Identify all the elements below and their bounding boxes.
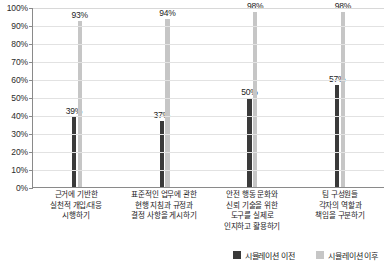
bar[interactable]: 98% [253, 12, 257, 187]
y-axis-tick [29, 170, 33, 171]
x-axis-label: 근거에 기반한실천적 개입/대응시행하기 [26, 190, 126, 222]
y-axis-tick [29, 26, 33, 27]
legend-swatch [316, 251, 324, 259]
y-axis-tick [29, 98, 33, 99]
x-axis-label-line: 팀 구성원들 [290, 190, 386, 201]
gridline [33, 98, 384, 99]
y-axis-tick [29, 188, 33, 189]
gridline [33, 8, 384, 9]
x-axis-label-line: 인지하고 활용하기 [202, 222, 302, 233]
legend-item[interactable]: 시뮬레이션 이후 [316, 250, 378, 261]
chart-legend: 시뮬레이션 이전시뮬레이션 이후 [0, 246, 386, 264]
y-tick-label: 10% [11, 165, 28, 175]
y-axis-tick [29, 62, 33, 63]
y-tick-label: 60% [11, 75, 28, 85]
y-axis-tick [29, 116, 33, 117]
y-axis-tick [29, 80, 33, 81]
gridline [33, 170, 384, 171]
y-axis: 0%10%20%30%40%50%60%70%80%90%100% [0, 0, 30, 196]
x-axis-label: 팀 구성원들각자의 역할과책임을 구분하기 [290, 190, 386, 222]
bar[interactable]: 50% [247, 98, 251, 188]
y-axis-tick [29, 134, 33, 135]
bar[interactable]: 93% [78, 21, 82, 187]
x-axis-label-line: 도구를 실제로 [202, 211, 302, 222]
bar-value-label: 93% [72, 10, 88, 20]
y-tick-label: 100% [7, 3, 28, 13]
y-tick-label: 90% [11, 21, 28, 31]
x-axis-label-line: 시행하기 [26, 211, 126, 222]
gridline [33, 62, 384, 63]
bar-chart: 0%10%20%30%40%50%60%70%80%90%100% 39%93%… [0, 0, 386, 267]
x-axis-category-labels: 근거에 기반한실천적 개입/대응시행하기표준적인 업무에 관한현행 지침과 규정… [32, 190, 384, 242]
y-tick-label: 30% [11, 129, 28, 139]
x-axis-label-line: 현행 지침과 규정과 [114, 201, 214, 212]
y-axis-tick [29, 8, 33, 9]
y-axis-tick [29, 152, 33, 153]
x-axis-label-line: 표준적인 업무에 관한 [114, 190, 214, 201]
x-axis-label: 표준적인 업무에 관한현행 지침과 규정과결정 사항을 게시하기 [114, 190, 214, 222]
plot-wrapper: 0%10%20%30%40%50%60%70%80%90%100% 39%93%… [0, 0, 386, 196]
x-axis-label-line: 각자의 역할과 [290, 201, 386, 212]
legend-label: 시뮬레이션 이후 [328, 250, 378, 261]
gridline [33, 44, 384, 45]
gridline [33, 134, 384, 135]
gridline [33, 80, 384, 81]
bar-value-label: 94% [159, 8, 175, 18]
bar-value-label: 98% [247, 1, 263, 11]
x-axis-label-line: 결정 사항을 게시하기 [114, 211, 214, 222]
bar[interactable]: 37% [160, 121, 164, 187]
y-axis-tick [29, 44, 33, 45]
x-axis-label-line: 신뢰 기술을 위한 [202, 201, 302, 212]
y-tick-label: 50% [11, 93, 28, 103]
gridline [33, 26, 384, 27]
plot-area: 39%93%37%94%50%98%57%98% [32, 8, 384, 188]
x-axis-label-line: 실천적 개입/대응 [26, 201, 126, 212]
x-axis-label-line: 안전 행동 문화와 [202, 190, 302, 201]
legend-label: 시뮬레이션 이전 [245, 250, 295, 261]
legend-swatch [233, 251, 241, 259]
legend-item[interactable]: 시뮬레이션 이전 [233, 250, 295, 261]
bar[interactable]: 57% [335, 85, 339, 187]
y-tick-label: 70% [11, 57, 28, 67]
gridline [33, 152, 384, 153]
bar[interactable]: 98% [341, 12, 345, 187]
y-tick-label: 20% [11, 147, 28, 157]
x-axis-label: 안전 행동 문화와신뢰 기술을 위한도구를 실제로인지하고 활용하기 [202, 190, 302, 232]
y-tick-label: 40% [11, 111, 28, 121]
x-axis-label-line: 책임을 구분하기 [290, 211, 386, 222]
gridline [33, 116, 384, 117]
x-axis-label-line: 근거에 기반한 [26, 190, 126, 201]
y-tick-label: 80% [11, 39, 28, 49]
bar-value-label: 98% [335, 1, 351, 11]
